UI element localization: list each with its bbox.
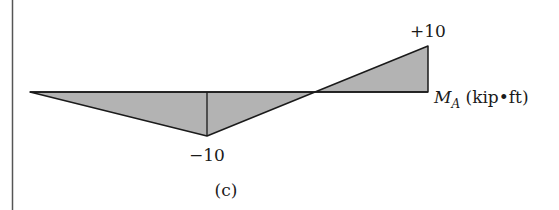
axis-symbol: M: [433, 87, 452, 107]
axis-units: (kip•ft): [460, 87, 528, 107]
axis-label: MA (kip•ft): [433, 87, 529, 111]
influence-line-diagram: +10 −10 (c) MA (kip•ft): [0, 0, 559, 210]
figure-caption: (c): [215, 180, 238, 200]
positive-peak-label: +10: [410, 21, 446, 41]
negative-peak-label: −10: [189, 145, 225, 165]
negative-region: [30, 92, 315, 136]
positive-region: [315, 46, 428, 92]
axis-subscript: A: [450, 97, 460, 111]
